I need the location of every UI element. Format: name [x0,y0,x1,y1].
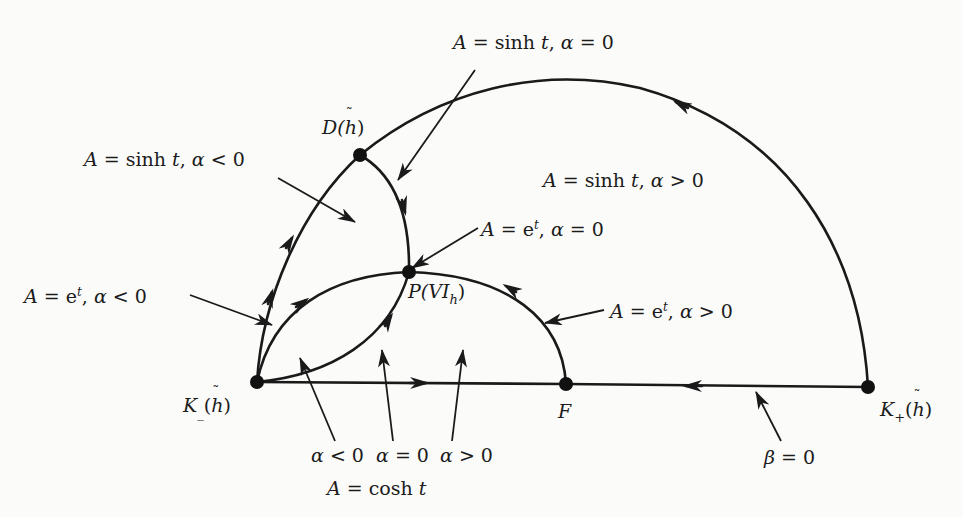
ann-comma: , [639,169,651,191]
orbit-exp-alpha-neg [257,272,409,382]
ann-eq: = e [624,300,663,322]
ann-alpha: α [192,148,205,170]
pointer-sinh-alpha-neg [278,178,355,222]
ann-comma: , [668,300,680,322]
annotation-exp-alpha0: A = et, α = 0 [481,219,604,239]
ann-alpha: α [94,285,107,307]
label-kminus-main: K [183,394,197,416]
ann-alpha: α [440,444,453,466]
phase-portrait-diagram [0,0,963,517]
ann-eq: = e [38,285,77,307]
ann-comma: , [549,31,561,53]
ann-eq: = e [495,218,534,240]
label-k-plus: K+(h˜) [880,400,932,424]
label-kplus-close: ) [925,398,932,420]
pointer-exp-alpha-neg [190,295,272,325]
label-d-close: ) [357,116,364,138]
label-p-main: P(VI [408,280,449,302]
ann-t: t [631,169,639,191]
node-d [353,148,367,162]
pointer-cosh-neg [300,358,335,441]
pointer-beta0 [756,392,781,441]
label-kminus-close: ) [223,394,230,416]
ann-t: t [172,148,180,170]
ann-alpha: α [311,444,324,466]
ann-rel: > 0 [664,169,704,191]
annotation-exp-alpha-neg: A = et, α < 0 [24,286,147,306]
ann-a: A [543,169,557,191]
label-kminus-hat: h˜ [211,394,223,416]
node-k-minus [250,375,264,389]
ann-rel: < 0 [107,285,147,307]
orbit-sinh-alpha-neg-left [257,155,360,382]
orbit-baseline-right [566,384,868,387]
ann-alpha: α [551,218,564,240]
ann-eq: = sinh [557,169,631,191]
label-f-text: F [558,400,571,422]
annotation-cosh-alpha-neg: α < 0 [311,446,364,465]
annotation-sinh-alpha0: A = sinh t, α = 0 [453,33,614,52]
node-k-plus [861,380,875,394]
ann-a: A [327,477,341,499]
label-kplus-main: K [880,398,894,420]
annotation-cosh-alpha-zero: α = 0 [376,446,429,465]
pointer-sinh-alpha0 [398,70,475,180]
orbit-arrow [286,238,292,248]
ann-comma: , [180,148,192,170]
ann-a: A [453,31,467,53]
ann-beta: β [764,446,775,468]
annotation-beta0: β = 0 [764,448,815,467]
annotation-cosh-alpha-pos: α > 0 [440,446,493,465]
pointer-exp-alpha-pos [545,310,604,323]
ann-alpha: α [561,31,574,53]
ann-t: t [541,31,549,53]
label-d-hat: h˜ [345,116,357,138]
ann-rel: < 0 [205,148,245,170]
ann-rel: = 0 [775,446,815,468]
annotation-sinh-alpha-neg: A = sinh t, α < 0 [84,150,245,169]
ann-rel: = 0 [574,31,614,53]
ann-rel: > 0 [453,444,493,466]
ann-comma: , [82,285,94,307]
label-f: F [558,402,571,421]
ann-rel: < 0 [324,444,364,466]
ann-t: t [419,477,427,499]
ann-eq: = sinh [467,31,541,53]
ann-a: A [610,300,624,322]
ann-eq: = cosh [341,477,419,499]
ann-a: A [481,218,495,240]
label-p-sub: h [449,292,457,307]
label-d-main: D( [322,116,345,138]
ann-alpha: α [651,169,664,191]
ann-a: A [84,148,98,170]
ann-a: A [24,285,38,307]
label-kplus-hat: h˜ [913,398,925,420]
pointer-cosh-pos [452,350,463,441]
orbit-sinh-alpha0 [360,155,409,272]
pointer-exp-alpha0 [412,228,478,268]
node-p [402,265,416,279]
label-p-close: ) [458,280,465,302]
orbit-arrow [506,286,516,292]
label-kplus-sub: + [894,410,905,425]
annotation-sinh-alpha-pos: A = sinh t, α > 0 [543,171,704,190]
label-p: P(VIh) [408,282,465,306]
annotation-exp-alpha-pos: A = et, α > 0 [610,301,733,321]
label-k-minus: K_(h˜) [183,396,231,420]
pointer-cosh-zero [382,350,393,441]
ann-alpha: α [376,444,389,466]
ann-comma: , [539,218,551,240]
ann-rel: > 0 [693,300,733,322]
label-kminus-open: ( [204,394,211,416]
ann-rel: = 0 [389,444,429,466]
label-kplus-open: ( [905,398,912,420]
label-d: D(h˜) [322,118,364,137]
ann-rel: = 0 [564,218,604,240]
annotation-cosh: A = cosh t [327,479,426,498]
ann-eq: = sinh [98,148,172,170]
node-f [559,377,573,391]
ann-alpha: α [680,300,693,322]
